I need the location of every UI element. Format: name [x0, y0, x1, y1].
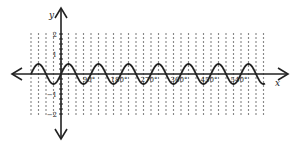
axes — [12, 8, 288, 139]
sine-graph: 90°180°270°360°450°540° 21−1−2 y x — [0, 0, 303, 148]
x-tick-label: 90° — [83, 76, 95, 84]
y-axis-label: y — [48, 10, 55, 20]
y-tick-label: −1 — [47, 91, 57, 99]
y-tick-label: −2 — [47, 111, 57, 119]
x-tick-label: 270° — [141, 76, 158, 84]
y-tick-labels: 21−1−2 — [47, 31, 57, 119]
x-tick-label: 450° — [201, 76, 218, 84]
y-tick-label: 2 — [53, 31, 57, 39]
x-tick-label: 180° — [111, 76, 128, 84]
y-tick-label: 1 — [53, 51, 57, 59]
x-axis-label: x — [275, 78, 280, 88]
x-tick-label: 540° — [231, 76, 248, 84]
x-tick-label: 360° — [171, 76, 188, 84]
